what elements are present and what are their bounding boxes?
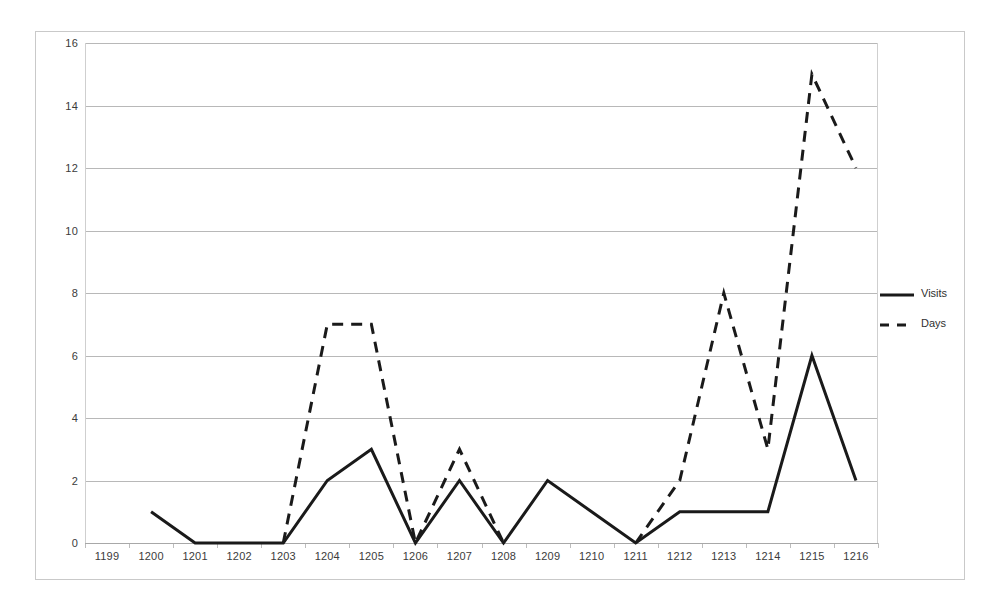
- x-tick-label: 1205: [359, 550, 384, 562]
- x-tick-label: 1206: [403, 550, 428, 562]
- x-tick-label: 1199: [95, 550, 119, 562]
- x-tick-label: 1200: [138, 550, 163, 562]
- chart-legend: VisitsDays: [880, 278, 960, 338]
- x-tick-mark: [878, 543, 879, 548]
- y-tick-label: 2: [38, 475, 78, 487]
- x-tick-label: 1209: [535, 550, 560, 562]
- y-tick-label: 10: [38, 225, 78, 237]
- y-tick-label: 8: [38, 287, 78, 299]
- x-tick-label: 1208: [491, 550, 516, 562]
- x-tick-label: 1212: [667, 550, 692, 562]
- x-tick-label: 1204: [315, 550, 340, 562]
- y-tick-label: 16: [38, 37, 78, 49]
- series-line-days: [283, 324, 503, 543]
- legend-swatch-solid-icon: [880, 287, 914, 299]
- x-tick-label: 1203: [271, 550, 296, 562]
- x-tick-label: 1207: [447, 550, 472, 562]
- chart-container: 0246810121416 11991200120112021203120412…: [0, 0, 1002, 612]
- y-axis: 0246810121416: [36, 43, 78, 543]
- legend-item-visits[interactable]: Visits: [880, 278, 960, 308]
- x-axis: 1199120012011202120312041205120612071208…: [85, 550, 878, 570]
- y-tick-label: 6: [38, 350, 78, 362]
- y-tick-label: 0: [38, 537, 78, 549]
- x-tick-label: 1202: [227, 550, 252, 562]
- legend-label: Visits: [921, 287, 947, 299]
- y-tick-label: 4: [38, 412, 78, 424]
- legend-swatch-dashed-icon: [880, 317, 914, 329]
- y-tick-label: 12: [38, 162, 78, 174]
- plot-area: [85, 43, 878, 543]
- legend-label: Days: [921, 317, 946, 329]
- y-tick-label: 14: [38, 100, 78, 112]
- x-tick-label: 1210: [579, 550, 604, 562]
- legend-item-days[interactable]: Days: [880, 308, 960, 338]
- x-tick-label: 1216: [843, 550, 868, 562]
- x-tick-label: 1201: [182, 550, 207, 562]
- series-lines: [85, 43, 878, 543]
- x-tick-label: 1213: [711, 550, 736, 562]
- x-tick-label: 1215: [799, 550, 824, 562]
- x-tick-label: 1214: [755, 550, 780, 562]
- series-line-days: [636, 74, 856, 543]
- x-tick-label: 1211: [623, 550, 647, 562]
